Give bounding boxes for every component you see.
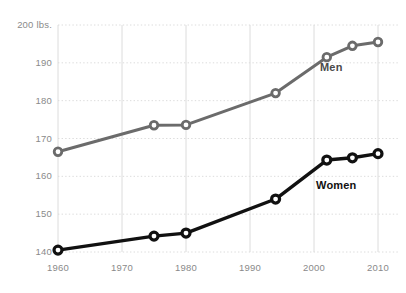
y-tick-label: 190 [0, 57, 52, 68]
data-point-marker [348, 154, 356, 162]
series-line-women [58, 154, 378, 250]
y-tick-label: 170 [0, 133, 52, 144]
data-point-marker [150, 121, 158, 129]
data-point-marker [54, 148, 62, 156]
series-label-men: Men [320, 61, 343, 73]
chart-plot-area [0, 0, 406, 293]
y-tick-label: 180 [0, 95, 52, 106]
data-point-marker [272, 195, 280, 203]
data-point-marker [374, 38, 382, 46]
data-point-marker [182, 229, 190, 237]
data-point-marker [374, 150, 382, 158]
data-point-marker [272, 89, 280, 97]
data-point-marker [323, 53, 331, 61]
x-tick-label: 2000 [289, 262, 339, 273]
data-point-marker [182, 121, 190, 129]
x-tick-label: 1970 [97, 262, 147, 273]
x-tick-label: 1980 [161, 262, 211, 273]
series-lines-group [58, 42, 378, 250]
x-tick-label: 1960 [33, 262, 83, 273]
weight-trend-line-chart: 140150160170180190200 lbs. 1960197019801… [0, 0, 406, 293]
y-tick-label: 200 lbs. [0, 19, 52, 30]
x-tick-label: 1990 [225, 262, 275, 273]
y-tick-label: 160 [0, 170, 52, 181]
data-point-marker [349, 42, 357, 50]
y-tick-label: 140 [0, 246, 52, 257]
series-label-women: Women [316, 179, 357, 191]
data-point-marker [54, 246, 62, 254]
y-tick-label: 150 [0, 208, 52, 219]
x-tick-label: 2010 [353, 262, 403, 273]
data-point-marker [323, 156, 331, 164]
data-point-marker [150, 232, 158, 240]
